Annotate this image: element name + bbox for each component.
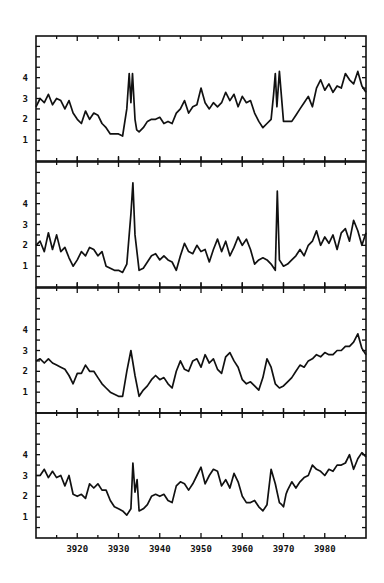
panel-frame xyxy=(36,413,366,538)
spectrum-trace xyxy=(36,334,366,397)
x-tick-label: 3930 xyxy=(108,544,130,554)
spectrum-trace xyxy=(36,183,366,273)
y-tick-label: 1 xyxy=(23,512,28,522)
y-tick-label: 1 xyxy=(23,387,28,397)
panel-1: 1234 xyxy=(23,36,366,161)
y-tick-label: 3 xyxy=(23,471,28,481)
x-tick-label: 3940 xyxy=(149,544,171,554)
spectrum-trace xyxy=(36,71,366,136)
spectrum-trace xyxy=(36,453,366,515)
x-tick-label: 3950 xyxy=(190,544,212,554)
y-tick-label: 4 xyxy=(23,325,29,335)
y-tick-label: 4 xyxy=(23,73,29,83)
panel-2: 1234 xyxy=(23,157,366,287)
spectrum-chart: 1234 1234 1234 1234 39203930394039503960… xyxy=(0,0,384,583)
x-tick-label: 3970 xyxy=(273,544,295,554)
panel-frame xyxy=(36,162,366,287)
y-tick-label: 2 xyxy=(23,491,28,501)
panel-frame xyxy=(36,288,366,413)
panel-4: 1234 xyxy=(23,408,366,538)
panel-frame xyxy=(36,36,366,161)
y-tick-label: 4 xyxy=(23,199,29,209)
y-tick-label: 4 xyxy=(23,450,29,460)
x-tick-label: 3960 xyxy=(231,544,253,554)
x-axis-labels: 3920393039403950396039703980 xyxy=(66,544,335,554)
y-tick-label: 2 xyxy=(23,114,28,124)
y-tick-label: 1 xyxy=(23,261,28,271)
y-tick-label: 3 xyxy=(23,94,28,104)
y-tick-label: 1 xyxy=(23,135,28,145)
panel-3: 1234 xyxy=(23,283,366,413)
y-tick-label: 2 xyxy=(23,240,28,250)
y-tick-label: 3 xyxy=(23,220,28,230)
x-tick-label: 3920 xyxy=(66,544,88,554)
y-tick-label: 3 xyxy=(23,346,28,356)
y-tick-label: 2 xyxy=(23,366,28,376)
x-tick-label: 3980 xyxy=(314,544,336,554)
